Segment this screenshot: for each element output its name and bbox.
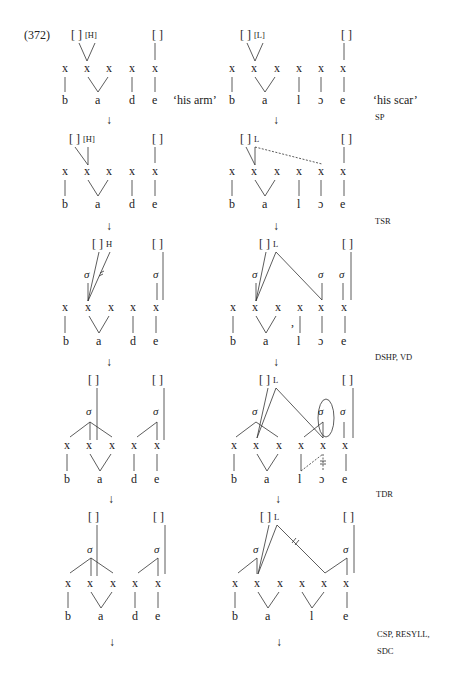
svg-text:[ ]: [ ]: [152, 28, 163, 42]
arrow-icon: ↓: [106, 355, 112, 369]
svg-text:σ: σ: [340, 405, 346, 417]
svg-text:x: x: [106, 61, 112, 75]
stage-2-right: [ ]L [ ] xxxxxx balɔe: [229, 132, 352, 211]
svg-text:x: x: [62, 164, 68, 178]
svg-text:[L]: [L]: [254, 30, 265, 40]
svg-text:ɔ: ɔ: [318, 197, 323, 211]
svg-text:l: l: [297, 93, 301, 107]
svg-text:d: d: [131, 472, 137, 486]
svg-text:l: l: [298, 472, 302, 486]
svg-text:σ: σ: [318, 268, 324, 280]
svg-text:[ ]: [ ]: [88, 510, 99, 524]
svg-text:d: d: [129, 93, 135, 107]
derivation-diagram: (372) [ ] [H] [ ] xxxxx bade ‘his arm’ […: [0, 0, 460, 674]
svg-text:x: x: [154, 438, 160, 452]
rule-label-csp-resyll: CSP, RESYLL,: [377, 629, 430, 639]
svg-text:x: x: [152, 61, 158, 75]
svg-text:x: x: [106, 164, 112, 178]
svg-text:x: x: [229, 61, 235, 75]
svg-text:x: x: [296, 164, 302, 178]
svg-text:x: x: [62, 61, 68, 75]
svg-text:x: x: [340, 61, 346, 75]
svg-text:x: x: [343, 576, 349, 590]
svg-text:x: x: [296, 61, 302, 75]
arrow-icon: ↓: [273, 113, 279, 127]
svg-text:L: L: [273, 239, 278, 249]
svg-text:b: b: [230, 334, 236, 348]
svg-text:[ ]: [ ]: [240, 132, 251, 146]
svg-text:x: x: [84, 61, 90, 75]
svg-text:[H]: [H]: [83, 134, 95, 144]
svg-text:a: a: [263, 334, 269, 348]
svg-text:a: a: [95, 197, 101, 211]
svg-text:x: x: [341, 300, 347, 314]
svg-text:e: e: [153, 334, 158, 348]
svg-text:e: e: [152, 93, 157, 107]
svg-text:l: l: [297, 334, 301, 348]
svg-text:x: x: [231, 438, 237, 452]
svg-text:x: x: [274, 164, 280, 178]
svg-text:b: b: [232, 609, 238, 623]
svg-text:[ ]: [ ]: [152, 373, 163, 387]
svg-text:x: x: [253, 438, 259, 452]
svg-text:x: x: [130, 300, 136, 314]
svg-text:x: x: [85, 300, 91, 314]
svg-text:x: x: [299, 576, 305, 590]
svg-text:x: x: [232, 576, 238, 590]
svg-text:d: d: [132, 609, 138, 623]
svg-text:x: x: [152, 164, 158, 178]
svg-text:x: x: [129, 61, 135, 75]
arrow-icon: ↓: [109, 635, 115, 649]
stage-3-right: [ ]L [ ] σ σ σ xxxxxx , balɔe: [230, 237, 353, 348]
arrow-icon: ↓: [106, 219, 112, 233]
svg-text:L: L: [273, 375, 278, 385]
svg-text:[H]: [H]: [85, 30, 97, 40]
svg-text:x: x: [131, 438, 137, 452]
svg-text:σ: σ: [253, 543, 259, 555]
svg-text:x: x: [62, 300, 68, 314]
svg-text:L: L: [254, 134, 259, 144]
svg-text:x: x: [321, 576, 327, 590]
svg-text:[ ]: [ ]: [342, 237, 353, 251]
svg-text:[ ]: [ ]: [259, 237, 270, 251]
svg-text:a: a: [262, 93, 268, 107]
svg-text:[ ]: [ ]: [71, 28, 82, 42]
svg-text:σ: σ: [86, 405, 92, 417]
svg-text:e: e: [341, 334, 346, 348]
svg-text:x: x: [251, 164, 257, 178]
svg-text:b: b: [231, 472, 237, 486]
stage-4-right: [ ]L [ ] σ σ σ xxxxxx balɔe: [231, 373, 353, 486]
svg-text:d: d: [130, 334, 136, 348]
stage-4-left: [ ] [ ] σ σ xxxxx bade: [64, 373, 164, 486]
svg-text:a: a: [96, 334, 102, 348]
svg-text:x: x: [153, 300, 159, 314]
svg-text:a: a: [97, 472, 103, 486]
gloss-his-arm: ‘his arm’: [173, 93, 217, 107]
svg-text:σ: σ: [252, 268, 258, 280]
svg-text:x: x: [318, 61, 324, 75]
svg-text:σ: σ: [339, 268, 345, 280]
svg-text:x: x: [132, 576, 138, 590]
rule-label-tdr: TDR: [376, 489, 393, 499]
svg-text:x: x: [276, 438, 282, 452]
svg-text:b: b: [62, 197, 68, 211]
arrow-icon: ↓: [273, 355, 279, 369]
svg-text:x: x: [275, 300, 281, 314]
svg-text:x: x: [109, 438, 115, 452]
svg-text:σ: σ: [87, 543, 93, 555]
svg-text:b: b: [64, 472, 70, 486]
stage-2-left: [ ][H] [ ] xxxxx bade: [62, 132, 163, 211]
svg-text:[ ]: [ ]: [69, 132, 80, 146]
rule-label-tsr: TSR: [375, 216, 391, 226]
stage-5-right: [ ]L [ ] σ σ xxxxxx bale: [232, 510, 354, 623]
svg-text:[ ]: [ ]: [259, 373, 270, 387]
svg-text:x: x: [298, 438, 304, 452]
svg-text:σ: σ: [84, 268, 90, 280]
arrow-icon: ↓: [106, 113, 112, 127]
svg-text:b: b: [62, 93, 68, 107]
svg-text:x: x: [86, 438, 92, 452]
svg-text:,: ,: [291, 315, 294, 329]
rule-label-sdc: SDC: [377, 646, 394, 656]
svg-text:[ ]: [ ]: [152, 132, 163, 146]
arrow-icon: ↓: [276, 635, 282, 649]
